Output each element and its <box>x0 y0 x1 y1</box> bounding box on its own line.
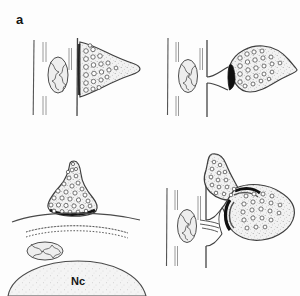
spine-neck <box>207 67 228 90</box>
panel-d: d <box>150 148 300 296</box>
panel-a: a <box>0 0 150 148</box>
synaptic-cleft-membrane <box>206 208 222 246</box>
panel-b: b <box>150 0 300 148</box>
subsurface-cisterna <box>26 226 128 238</box>
figure-canvas: a <box>0 0 300 296</box>
nucleus-label: Nc <box>71 275 85 287</box>
mitochondrion <box>27 242 63 260</box>
mitochondrion <box>48 57 68 93</box>
panel-c: c <box>0 148 150 296</box>
spine-apparatus <box>200 220 219 232</box>
nucleus: Nc <box>8 261 146 296</box>
mitochondrion <box>179 60 198 93</box>
mitochondrion <box>178 210 197 243</box>
